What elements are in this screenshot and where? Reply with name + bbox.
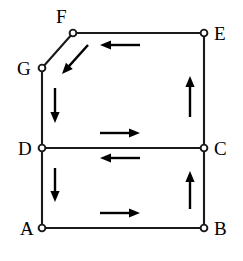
edges-group	[42, 33, 204, 228]
arrow-E-to-F	[100, 40, 140, 49]
arrow-D-to-A-head	[50, 191, 59, 202]
nodes-group	[39, 30, 208, 232]
edge-G-F	[42, 33, 73, 68]
arrow-D-to-A	[50, 168, 59, 202]
graph-canvas	[0, 0, 243, 261]
node-label-D: D	[18, 139, 32, 158]
arrow-E-to-F-head	[100, 40, 111, 49]
arrow-B-to-C-head	[185, 171, 194, 182]
arrow-C-to-D-head	[100, 153, 111, 162]
direction-arrows-group	[50, 40, 194, 217]
node-F[interactable]	[70, 30, 77, 37]
node-label-A: A	[20, 219, 34, 238]
node-A[interactable]	[39, 225, 46, 232]
node-label-F: F	[56, 7, 67, 26]
arrow-C-to-D	[100, 153, 140, 162]
node-D[interactable]	[39, 145, 46, 152]
arrow-D-to-C	[100, 128, 140, 137]
graph-diagram-figure: ABCDEFG	[0, 0, 243, 261]
node-label-G: G	[17, 59, 31, 78]
node-label-E: E	[214, 24, 226, 43]
arrow-A-to-B	[100, 208, 140, 217]
arrow-F-to-G	[62, 45, 88, 74]
arrow-A-to-B-head	[129, 208, 140, 217]
arrow-D-to-C-head	[129, 128, 140, 137]
arrow-G-to-D-head	[50, 112, 59, 123]
arrow-B-to-C	[185, 171, 194, 209]
node-G[interactable]	[39, 65, 46, 72]
node-B[interactable]	[201, 225, 208, 232]
arrow-G-to-D	[50, 88, 59, 123]
arrow-C-to-E-head	[185, 76, 194, 87]
arrow-C-to-E	[185, 76, 194, 117]
node-C[interactable]	[201, 145, 208, 152]
node-label-C: C	[214, 139, 227, 158]
node-E[interactable]	[201, 30, 208, 37]
node-label-B: B	[214, 219, 227, 238]
